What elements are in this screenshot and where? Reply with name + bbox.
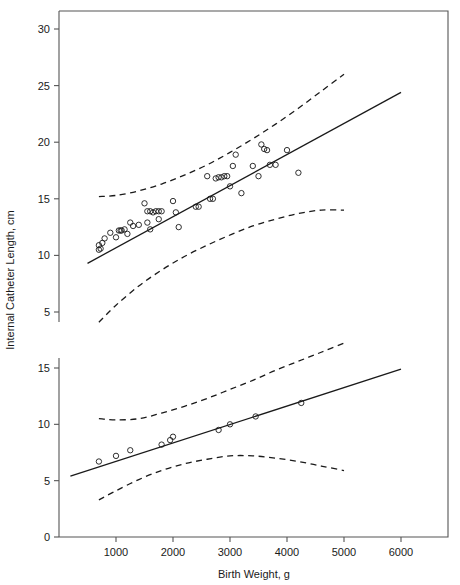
x-tick-label: 2000 [161,546,185,558]
y-tick-label: 10 [38,418,50,430]
figure-container: 100020003000400050006000 510152025300510… [0,0,460,585]
y-tick-label: 0 [44,531,50,543]
scatter-plot-svg: 100020003000400050006000 510152025300510… [0,0,460,585]
y-tick-label: 25 [38,80,50,92]
y-tick-label: 30 [38,23,50,35]
x-tick-label: 6000 [389,546,413,558]
x-tick-label: 3000 [218,546,242,558]
x-axis-title: Birth Weight, g [218,568,290,580]
plot-background [0,0,460,585]
y-tick-label: 10 [38,249,50,261]
y-tick-label: 15 [38,193,50,205]
y-tick-label: 5 [44,306,50,318]
y-axis-title: Internal Catheter Length, cm [4,210,16,349]
y-tick-label: 5 [44,475,50,487]
x-tick-label: 4000 [275,546,299,558]
y-tick-label: 20 [38,136,50,148]
x-tick-label: 5000 [332,546,356,558]
x-tick-label: 1000 [104,546,128,558]
y-tick-label: 15 [38,362,50,374]
